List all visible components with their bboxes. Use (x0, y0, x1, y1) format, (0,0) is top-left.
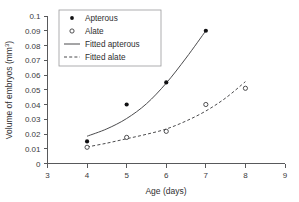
alate-data-point (125, 135, 129, 139)
y-tick-label: 0.03 (25, 115, 41, 124)
y-tick-label: 0.04 (25, 101, 41, 110)
legend-label: Alate (85, 27, 104, 36)
chart-canvas: 00.010.020.030.040.050.060.070.080.090.1… (0, 0, 299, 202)
chart-container: 00.010.020.030.040.050.060.070.080.090.1… (0, 0, 299, 202)
apterous-data-point (164, 80, 168, 84)
legend-label: Fitted alate (85, 53, 126, 62)
x-tick-label: 6 (164, 171, 169, 180)
y-tick-label: 0.07 (25, 56, 41, 65)
apterous-data-point (204, 29, 208, 33)
legend: ApterousAlateFitted apterousFitted alate (59, 10, 161, 66)
y-axis-title: Volume of embryos (mm3) (4, 41, 14, 139)
y-tick-group: 00.010.020.030.040.050.060.070.080.090.1 (25, 12, 48, 169)
legend-label: Fitted apterous (85, 40, 140, 49)
apterous-data-point (125, 102, 129, 106)
legend-label: Apterous (85, 14, 118, 23)
alate-data-point (164, 129, 168, 133)
y-tick-label: 0.02 (25, 130, 41, 139)
x-tick-label: 3 (45, 171, 50, 180)
y-axis-group: 00.010.020.030.040.050.060.070.080.090.1 (25, 12, 48, 169)
fitted-alate-curve (87, 82, 245, 147)
x-tick-group: 3456789 (45, 164, 288, 180)
legend-marker-alate (70, 29, 74, 33)
y-tick-label: 0.06 (25, 71, 41, 80)
x-tick-label: 9 (283, 171, 288, 180)
y-tick-label: 0.08 (25, 42, 41, 51)
x-axis-title: Age (days) (145, 186, 186, 196)
y-tick-label: 0.05 (25, 86, 41, 95)
apterous-data-point (85, 139, 89, 143)
x-tick-label: 7 (204, 171, 209, 180)
x-axis-group: 3456789 (45, 164, 288, 180)
alate-data-point (85, 145, 89, 149)
y-tick-label: 0 (36, 160, 41, 169)
y-tick-label: 0.01 (25, 145, 41, 154)
legend-marker-apterous (70, 16, 74, 20)
x-tick-label: 5 (124, 171, 129, 180)
x-tick-label: 8 (243, 171, 248, 180)
x-tick-label: 4 (85, 171, 90, 180)
alate-data-point (204, 102, 208, 106)
y-tick-label: 0.09 (25, 27, 41, 36)
y-tick-label: 0.1 (29, 12, 41, 21)
alate-data-point (243, 86, 247, 90)
